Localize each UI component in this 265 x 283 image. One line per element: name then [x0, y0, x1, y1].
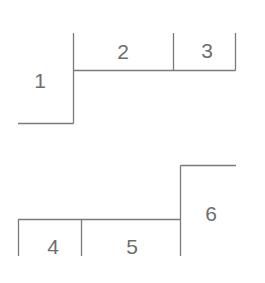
cell-2-label: 2 [117, 40, 129, 63]
cell-4-label: 4 [47, 235, 59, 258]
bottom-group: 4 5 6 [18, 166, 236, 259]
cell-layout-diagram: 1 2 3 4 5 6 [0, 0, 265, 283]
cell-6-label: 6 [205, 202, 217, 225]
cell-5-label: 5 [126, 235, 138, 258]
cell-3-label: 3 [201, 39, 213, 62]
top-group: 1 2 3 [18, 33, 236, 124]
cell-1-label: 1 [34, 69, 46, 92]
